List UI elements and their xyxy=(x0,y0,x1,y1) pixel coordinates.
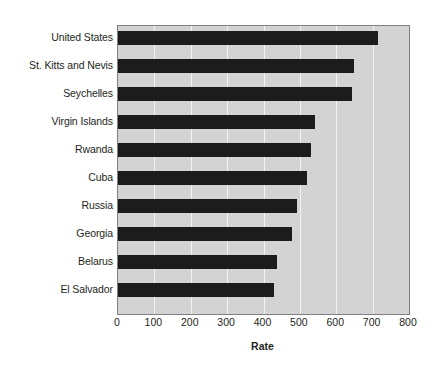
category-label: Virgin Islands xyxy=(0,116,113,127)
category-label: United States xyxy=(0,32,113,43)
bar xyxy=(118,255,277,269)
x-tick-label: 600 xyxy=(326,316,344,329)
category-label: El Salvador xyxy=(0,284,113,295)
bar xyxy=(118,143,311,157)
category-label: Rwanda xyxy=(0,144,113,155)
x-tick-label: 0 xyxy=(114,316,120,329)
category-label: Cuba xyxy=(0,172,113,183)
category-axis: United States St. Kitts and Nevis Seyche… xyxy=(0,25,113,313)
x-tick-label: 500 xyxy=(290,316,308,329)
x-tick-label: 200 xyxy=(181,316,199,329)
value-axis: 0100200300400500600700800 xyxy=(117,316,408,332)
bar xyxy=(118,171,307,185)
x-tick-label: 100 xyxy=(145,316,163,329)
bar xyxy=(118,59,354,73)
category-label: Russia xyxy=(0,200,113,211)
x-tick-label: 400 xyxy=(254,316,272,329)
x-tick-label: 800 xyxy=(399,316,417,329)
bars-layer xyxy=(118,26,409,314)
bar xyxy=(118,31,378,45)
category-label: St. Kitts and Nevis xyxy=(0,60,113,71)
bar xyxy=(118,199,297,213)
category-label: Belarus xyxy=(0,256,113,267)
category-label: Georgia xyxy=(0,228,113,239)
bar xyxy=(118,283,274,297)
bar xyxy=(118,87,352,101)
bar-chart-figure: United States St. Kitts and Nevis Seyche… xyxy=(0,0,438,371)
plot-area xyxy=(117,25,410,315)
bar xyxy=(118,227,292,241)
x-tick-label: 700 xyxy=(363,316,381,329)
category-label: Seychelles xyxy=(0,88,113,99)
x-axis-title: Rate xyxy=(117,340,408,352)
x-tick-label: 300 xyxy=(217,316,235,329)
bar xyxy=(118,115,315,129)
